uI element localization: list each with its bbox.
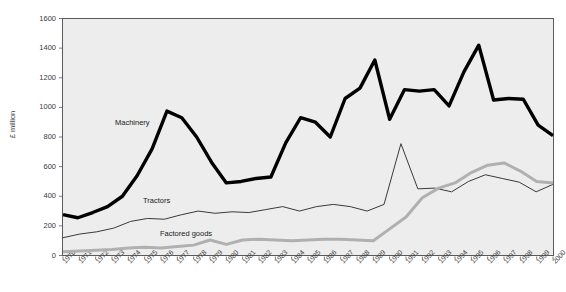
series-label: Tractors: [143, 196, 170, 205]
series-line: [63, 45, 553, 218]
line-chart: £ million 02004006008001000120014001600 …: [0, 0, 566, 292]
series-label: Factored goods: [160, 229, 212, 238]
series-line: [63, 144, 553, 238]
series-label: Machinery: [115, 118, 150, 127]
series-layer: [0, 0, 566, 292]
